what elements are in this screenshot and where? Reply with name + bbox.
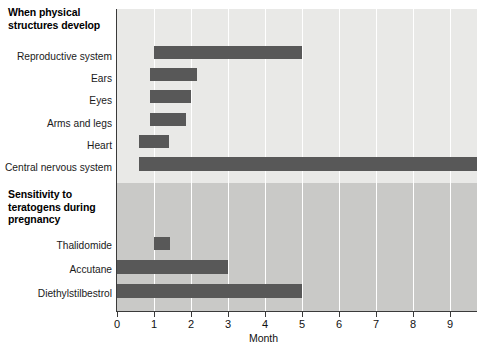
x-tick-label-5: 5 xyxy=(299,318,305,330)
x-tick-label-8: 8 xyxy=(410,318,416,330)
x-tick-9 xyxy=(450,312,451,317)
x-tick-label-0: 0 xyxy=(114,318,120,330)
category-label-column: When physical structures develop Reprodu… xyxy=(0,0,117,312)
x-axis-title-text: Month xyxy=(249,332,278,344)
section-heading-line-2: teratogens during xyxy=(8,201,116,214)
x-axis-line xyxy=(116,311,477,312)
x-tick-4 xyxy=(265,312,266,317)
section-heading-line-2: structures develop xyxy=(8,19,116,32)
y-axis-spine xyxy=(116,9,117,312)
row-label-arms-and-legs: Arms and legs xyxy=(47,118,112,129)
section-heading-line-1: Sensitivity to xyxy=(8,188,116,201)
x-tick-label-4: 4 xyxy=(262,318,268,330)
row-label-diethylstilbestrol: Diethylstilbestrol xyxy=(38,288,112,299)
gridline-month-8 xyxy=(413,183,414,312)
x-tick-label-7: 7 xyxy=(373,318,379,330)
row-label-thalidomide: Thalidomide xyxy=(57,240,113,251)
row-label-accutane: Accutane xyxy=(70,264,112,275)
bar-arms-and-legs xyxy=(150,113,186,126)
gridline-month-9 xyxy=(450,183,451,312)
bar-eyes xyxy=(150,90,191,103)
x-tick-0 xyxy=(117,312,118,317)
x-tick-6 xyxy=(339,312,340,317)
section-heading-line-3: pregnancy xyxy=(8,213,116,226)
x-tick-label-6: 6 xyxy=(336,318,342,330)
x-tick-3 xyxy=(228,312,229,317)
x-tick-5 xyxy=(302,312,303,317)
bar-heart xyxy=(139,135,169,148)
row-label-ears: Ears xyxy=(91,73,112,84)
x-tick-label-2: 2 xyxy=(188,318,194,330)
row-label-heart: Heart xyxy=(87,140,112,151)
gridline-month-5 xyxy=(302,183,303,312)
plot-panel-physical-structures xyxy=(117,9,477,183)
x-tick-1 xyxy=(154,312,155,317)
x-axis-title: Month xyxy=(0,332,479,344)
gridline-month-6 xyxy=(339,183,340,312)
section-heading-line-1: When physical xyxy=(8,6,116,19)
bar-thalidomide xyxy=(154,237,170,250)
x-tick-label-9: 9 xyxy=(447,318,453,330)
section-heading-physical-structures: When physical structures develop xyxy=(8,6,116,31)
gridline-month-7 xyxy=(376,183,377,312)
section-heading-teratogen-sensitivity: Sensitivity to teratogens during pregnan… xyxy=(8,188,116,226)
x-tick-7 xyxy=(376,312,377,317)
bar-central-nervous-system xyxy=(139,157,477,171)
x-tick-label-3: 3 xyxy=(225,318,231,330)
row-label-central-nervous-system: Central nervous system xyxy=(5,162,112,173)
bar-ears xyxy=(150,68,197,81)
bar-diethylstilbestrol xyxy=(117,284,302,298)
x-tick-2 xyxy=(191,312,192,317)
bar-reproductive-system xyxy=(154,46,302,59)
teratogen-timeline-chart: When physical structures develop Reprodu… xyxy=(0,0,479,348)
row-label-eyes: Eyes xyxy=(89,95,112,106)
row-label-reproductive-system: Reproductive system xyxy=(17,51,112,62)
x-tick-8 xyxy=(413,312,414,317)
bar-accutane xyxy=(117,260,228,274)
plot-panel-teratogen-sensitivity xyxy=(117,183,477,312)
x-tick-label-1: 1 xyxy=(151,318,157,330)
